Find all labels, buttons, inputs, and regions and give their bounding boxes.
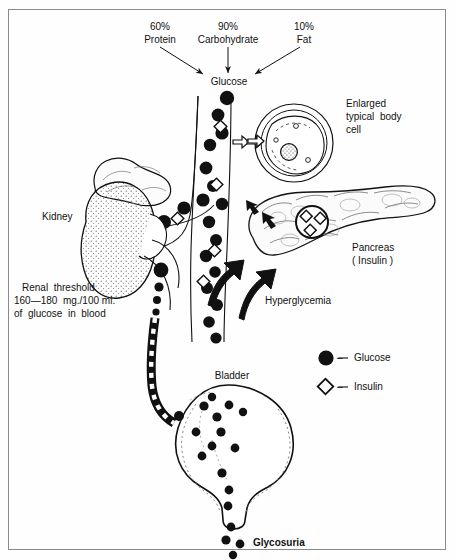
body-cell-illustration bbox=[255, 104, 333, 182]
legend-insulin-symbol bbox=[318, 379, 348, 395]
ureter bbox=[151, 318, 174, 423]
glucose-renal-threshold-particles bbox=[152, 263, 168, 316]
nutrient-arrows bbox=[160, 47, 300, 74]
diagram-canvas: 60% Protein 90% Carbohydrate 10% Fat Glu… bbox=[0, 0, 456, 560]
cell-label-line-1: Enlarged bbox=[346, 98, 386, 110]
pancreas-illustration bbox=[249, 186, 435, 255]
bladder-illustration bbox=[176, 385, 294, 529]
cell-label-line-3: cell bbox=[346, 124, 361, 136]
legend-insulin-label: Insulin bbox=[354, 381, 383, 393]
nutrient-carbohydrate-name: Carbohydrate bbox=[178, 34, 278, 46]
renal-threshold-line-3: of glucose in blood bbox=[14, 308, 106, 320]
nutrient-fat-percent: 10% bbox=[276, 21, 332, 33]
bladder-label: Bladder bbox=[192, 370, 272, 382]
pancreas-label-line-2: ( Insulin ) bbox=[352, 255, 393, 267]
kidney-label: Kidney bbox=[42, 211, 73, 223]
glucose-node-label: Glucose bbox=[186, 76, 272, 88]
legend-insulin-dash: – bbox=[337, 381, 343, 393]
renal-threshold-line-2: 160—180 mg./100 ml. bbox=[14, 295, 115, 307]
renal-threshold-line-1: Renal threshold bbox=[22, 282, 95, 294]
legend-glucose-symbol bbox=[318, 350, 348, 365]
kidney-illustration bbox=[81, 158, 179, 310]
hyperglycemia-label: Hyperglycemia bbox=[265, 295, 331, 307]
nutrient-fat-name: Fat bbox=[276, 34, 332, 46]
nutrient-carbohydrate-percent: 90% bbox=[186, 21, 270, 33]
cell-label-line-2: typical body bbox=[346, 111, 402, 123]
pancreas-label-line-1: Pancreas bbox=[352, 242, 394, 254]
legend-glucose-label: Glucose bbox=[354, 352, 391, 364]
glycosuria-label: Glycosuria bbox=[253, 537, 305, 549]
legend-glucose-dash: – bbox=[337, 352, 343, 364]
